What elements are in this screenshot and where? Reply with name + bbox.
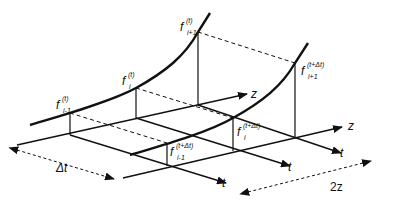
dimension-2z [248, 161, 371, 192]
profile-curve-t-plus-dt [130, 43, 308, 155]
label-f-ip1-t: f (t) i+1 [180, 21, 183, 33]
dashed-link-i [136, 88, 233, 118]
label-z-back: z [251, 88, 257, 100]
label-f-ip1-tdt: f (t+Δt) i+1 [301, 65, 304, 77]
t-axis-i-plus-1 [198, 105, 341, 153]
label-z-front: z [348, 120, 354, 132]
label-f-i-tdt: f (t+Δt) i [237, 126, 240, 138]
label-f-i-t: f (t) i [122, 75, 125, 87]
label-t1: t [222, 177, 225, 189]
label-delta-t: Δt [56, 162, 67, 174]
label-t3: t [340, 147, 343, 159]
t-axis-i [136, 118, 290, 166]
label-t2: t [288, 161, 291, 173]
label-f-im1-tdt: f (t+Δt) i-1 [170, 146, 173, 158]
dashed-link-im1 [70, 113, 167, 143]
label-2z: 2z [330, 181, 343, 193]
dashed-link-ip1 [198, 32, 295, 63]
label-f-im1-t: f (t) i-1 [56, 99, 59, 111]
